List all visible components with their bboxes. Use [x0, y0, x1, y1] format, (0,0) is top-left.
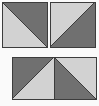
panel-bottom-left-square [12, 57, 54, 99]
tile-pattern-figure: Geometric pattern of three panels built … [0, 0, 99, 106]
panel-top-right-square [50, 2, 95, 47]
tile-pattern-canvas [0, 0, 99, 106]
panel-bottom-right-square [54, 57, 96, 99]
panel-top-left-square [2, 2, 47, 47]
